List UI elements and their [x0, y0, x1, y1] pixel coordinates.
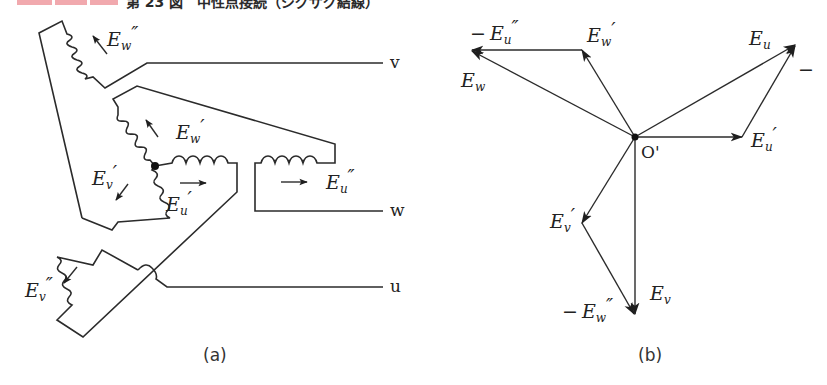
- origin-dot: [632, 134, 639, 141]
- arrow-ew2-icon: [93, 36, 107, 54]
- label-ev1-b: Ev′: [549, 204, 576, 235]
- phasor-ev1: [582, 137, 635, 223]
- label-ev-b: Ev: [649, 282, 671, 307]
- label-eu-b: Eu: [748, 27, 771, 52]
- label-ew1-b: Ew′: [586, 18, 616, 49]
- label-eu1-b: Eu′: [750, 123, 778, 154]
- caption-a: (a): [203, 345, 227, 365]
- figure-a-circuit: Ew″ Ew′ Ev′ Eu′ Eu″ Ev″ v w u (a): [24, 21, 405, 365]
- phasor-eu: [635, 45, 795, 137]
- label-eu1: Eu′: [165, 187, 193, 218]
- edge-mark: −: [798, 58, 814, 80]
- neutral-point-dot: [151, 162, 159, 170]
- caption-b: (b): [638, 345, 662, 365]
- label-neg-eu2: −Eu″: [470, 16, 519, 47]
- terminal-w: w: [390, 200, 405, 220]
- phasor-ew: [472, 51, 635, 137]
- wire-eu1: [57, 156, 237, 337]
- figure-canvas: Ew″ Ew′ Ev′ Eu′ Eu″ Ev″ v w u (a) O': [0, 0, 827, 385]
- figure-b-phasors: O' −Eu″ Ew′ Ew Eu Eu′ Ev′ Ev −Ew″ − (b): [460, 16, 814, 365]
- label-ev1: Ev′: [91, 161, 118, 192]
- label-neg-ew2: −Ew″: [562, 294, 613, 325]
- phasor-ew1: [582, 50, 635, 137]
- label-ew1: Ew′: [175, 115, 205, 146]
- label-ew2: Ew″: [106, 22, 138, 53]
- arrow-ew1-icon: [146, 120, 158, 137]
- origin-label: O': [641, 142, 660, 162]
- wire-u-line: [138, 265, 383, 287]
- label-eu2: Eu″: [325, 165, 355, 196]
- label-ev2: Ev″: [24, 273, 53, 304]
- terminal-u: u: [390, 276, 401, 296]
- arrow-ev1-icon: [116, 184, 128, 200]
- label-ew-b: Ew: [460, 69, 486, 94]
- terminal-v: v: [389, 52, 400, 72]
